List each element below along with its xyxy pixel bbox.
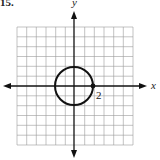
point-marker xyxy=(91,84,96,89)
y-axis-up-arrow-icon xyxy=(71,11,77,19)
y-axis-down-arrow-icon xyxy=(71,150,77,158)
x-axis-right-arrow-icon xyxy=(139,83,147,89)
x-axis-label: x xyxy=(151,79,156,91)
y-axis-label: y xyxy=(72,0,77,8)
x-axis-left-arrow-icon xyxy=(3,83,11,89)
coordinate-plane xyxy=(0,0,160,160)
y-axis xyxy=(71,11,77,158)
x-axis xyxy=(3,83,147,89)
point-label: 2 xyxy=(96,89,102,101)
